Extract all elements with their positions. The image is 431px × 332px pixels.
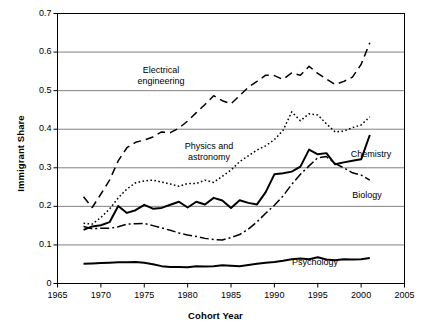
- x-tick-label: 1970: [79, 290, 123, 300]
- series-label-chemistry: Chemistry: [311, 149, 431, 160]
- x-tick-label: 1975: [122, 290, 166, 300]
- series-label-line: astronomy: [149, 152, 269, 163]
- series-label-line: Electrical: [101, 65, 221, 76]
- series-label-physics-and: Physics andastronomy: [149, 141, 269, 163]
- y-tick-label: 0.1: [18, 239, 52, 249]
- series-label-electrical: Electricalengineering: [101, 65, 221, 87]
- x-tick-label: 1980: [166, 290, 210, 300]
- series-label-line: engineering: [101, 76, 221, 87]
- x-tick-label: 1965: [36, 290, 80, 300]
- y-tick-label: 0.6: [18, 46, 52, 56]
- series-label-line: Physics and: [149, 141, 269, 152]
- series-label-biology: Biology: [307, 190, 427, 201]
- x-axis-title: Cohort Year: [0, 310, 431, 321]
- x-tick-label: 2000: [339, 290, 383, 300]
- y-tick-label: 0.5: [18, 85, 52, 95]
- y-tick-label: 0.4: [18, 123, 52, 133]
- y-axis-title: Immigrant Share: [15, 94, 26, 214]
- immigrant-share-line-chart: Immigrant Share Cohort Year 00.10.20.30.…: [0, 0, 431, 332]
- y-tick-label: 0: [18, 278, 52, 288]
- x-tick-label: 2005: [383, 290, 427, 300]
- series-label-line: Biology: [307, 190, 427, 201]
- series-label-line: Psychology: [255, 257, 375, 268]
- series-label-psychology: Psychology: [255, 257, 375, 268]
- x-tick-label: 1985: [209, 290, 253, 300]
- y-tick-label: 0.3: [18, 162, 52, 172]
- x-tick-label: 1990: [252, 290, 296, 300]
- x-tick-label: 1995: [296, 290, 340, 300]
- chart-plot-area: [0, 0, 431, 332]
- series-label-line: Chemistry: [311, 149, 431, 160]
- y-tick-label: 0.7: [18, 8, 52, 18]
- y-tick-label: 0.2: [18, 200, 52, 210]
